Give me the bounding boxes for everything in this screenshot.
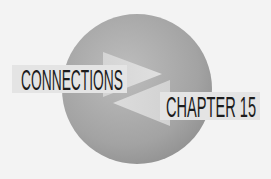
connections-text: CONNECTIONS	[21, 66, 123, 95]
chapter-connections-graphic: CONNECTIONS CHAPTER 15	[0, 0, 271, 179]
connections-label: CONNECTIONS	[12, 65, 127, 93]
chapter-label: CHAPTER 15	[160, 92, 260, 120]
chapter-number-text: CHAPTER 15	[166, 93, 256, 122]
